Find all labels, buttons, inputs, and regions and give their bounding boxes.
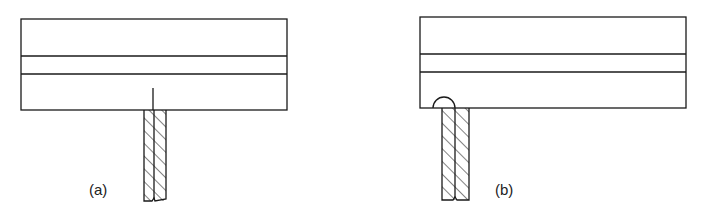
panel-b: (b) <box>420 17 686 200</box>
diagram-canvas: (a) (b) <box>0 0 712 210</box>
semicircular-notch-b <box>433 97 455 108</box>
hatched-strip-b <box>442 108 469 200</box>
hatched-strip-a <box>144 110 166 201</box>
layered-block-a <box>21 19 287 110</box>
panel-a: (a) <box>21 19 287 201</box>
layered-block-b <box>420 17 686 108</box>
panel-label-a: (a) <box>89 181 107 198</box>
panel-label-b: (b) <box>495 181 513 198</box>
